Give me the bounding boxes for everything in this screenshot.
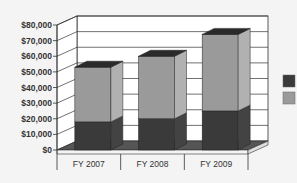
bar-side — [238, 105, 250, 150]
bar-front — [202, 34, 238, 111]
bar-side — [111, 61, 123, 122]
bar-segment — [202, 28, 250, 111]
bar-segment — [202, 105, 250, 150]
legend-swatch — [283, 92, 295, 104]
y-tick-label: $70,000 — [21, 36, 52, 46]
bar-front — [202, 111, 238, 150]
bar-front — [139, 119, 175, 150]
legend — [283, 75, 295, 104]
bar-segment — [75, 61, 123, 122]
y-tick-label: $50,000 — [21, 67, 52, 77]
x-axis: FY 2007FY 2008FY 2009 — [57, 154, 248, 170]
y-tick-label: $10,000 — [21, 129, 52, 139]
bar-side — [175, 113, 187, 150]
y-tick-label: $20,000 — [21, 114, 52, 124]
bar-segment — [139, 50, 187, 119]
bar-side — [175, 50, 187, 119]
y-tick-label: $0 — [43, 145, 53, 155]
x-tick-label: FY 2007 — [73, 159, 105, 169]
y-tick-label: $80,000 — [21, 20, 52, 30]
bar-front — [75, 122, 111, 150]
floor-edge — [57, 150, 248, 154]
bar-front — [139, 56, 175, 119]
bar-front — [75, 67, 111, 122]
x-tick-label: FY 2008 — [137, 159, 169, 169]
stacked-bar-chart: $0$10,000$20,000$30,000$40,000$50,000$60… — [0, 0, 297, 183]
y-tick-label: $30,000 — [21, 98, 52, 108]
legend-swatch — [283, 75, 295, 87]
bar-side — [238, 28, 250, 111]
x-tick-label: FY 2009 — [200, 159, 232, 169]
y-axis: $0$10,000$20,000$30,000$40,000$50,000$60… — [21, 20, 57, 155]
y-tick-label: $60,000 — [21, 51, 52, 61]
y-tick-label: $40,000 — [21, 83, 52, 93]
